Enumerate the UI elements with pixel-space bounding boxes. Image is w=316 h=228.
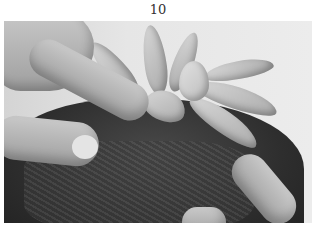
page-number: 10: [0, 2, 316, 17]
finger-right-lower: [182, 207, 226, 223]
succulent-leaf: [179, 61, 209, 101]
succulent-planting-photo: [4, 21, 312, 223]
thumb-nail: [72, 135, 98, 159]
